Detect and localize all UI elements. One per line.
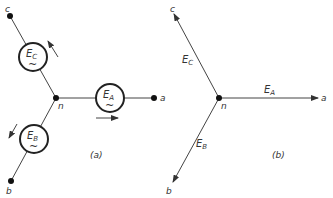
diagram-b-phasor: n c a b EC EA EB (b) (166, 4, 327, 196)
arrow-eb-direction-icon (9, 124, 17, 138)
terminal-a-label: a (160, 93, 166, 103)
phasor-eb-label: EB (196, 138, 207, 151)
caption-b: (b) (272, 150, 285, 160)
terminal-a-label: a (321, 93, 327, 103)
arrow-ec-direction-icon (48, 41, 58, 57)
phasor-ec-arrow (174, 14, 219, 98)
wye-connection-figure: EC ~ EA ~ EB ~ n c a b (a) (0, 0, 333, 198)
terminal-b-label: b (166, 186, 172, 196)
source-ea: EA ~ (96, 84, 124, 112)
phasor-ea-label: EA (264, 84, 275, 97)
caption-a: (a) (90, 150, 103, 160)
phasor-ec-label: EC (182, 54, 193, 67)
neutral-label: n (58, 101, 64, 111)
neutral-label: n (221, 101, 227, 111)
source-ec: EC ~ (19, 43, 47, 71)
terminal-c-label: c (170, 4, 175, 14)
source-eb: EB ~ (20, 125, 48, 153)
ac-symbol-icon: ~ (28, 58, 37, 71)
terminal-a-node (151, 95, 157, 101)
diagram-a-circuit: EC ~ EA ~ EB ~ n c a b (a) (5, 4, 166, 196)
terminal-b-node (8, 178, 14, 184)
terminal-b-label: b (6, 186, 12, 196)
terminal-c-label: c (5, 4, 10, 14)
ac-symbol-icon: ~ (29, 140, 38, 153)
ac-symbol-icon: ~ (105, 99, 114, 112)
